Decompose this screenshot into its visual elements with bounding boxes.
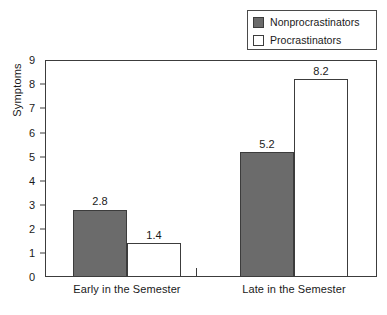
bar-early-nonprocrastinators <box>73 210 127 278</box>
y-tick-label: 7 <box>29 103 35 114</box>
bar-chart: Nonprocrastinators Procrastinators Sympt… <box>0 0 387 315</box>
y-tick-label: 0 <box>29 272 35 283</box>
legend-item-procrastinators: Procrastinators <box>253 32 372 48</box>
y-tick-label: 6 <box>29 128 35 139</box>
filled-square-icon <box>253 17 264 28</box>
y-tick-label: 3 <box>29 200 35 211</box>
y-tick-label: 9 <box>29 55 35 66</box>
hollow-square-icon <box>253 35 264 46</box>
y-tick-label: 4 <box>29 176 35 187</box>
y-tick-label: 5 <box>29 152 35 163</box>
legend-item-label: Procrastinators <box>270 34 341 46</box>
y-tick-label: 8 <box>29 79 35 90</box>
y-tick-label: 2 <box>29 224 35 235</box>
bar-value-label: 5.2 <box>259 138 274 150</box>
bar-early-procrastinators <box>127 243 181 277</box>
bar-late-procrastinators <box>294 79 348 277</box>
bar-late-nonprocrastinators <box>240 152 294 277</box>
y-tick-label: 1 <box>29 248 35 259</box>
x-tick-label-early: Early in the Semester <box>73 283 180 296</box>
bar-value-label: 8.2 <box>313 65 328 77</box>
legend-item-label: Nonprocrastinators <box>270 16 360 28</box>
x-tick-label-late: Late in the Semester <box>242 283 346 296</box>
legend-item-nonprocrastinators: Nonprocrastinators <box>253 14 372 30</box>
bar-value-label: 2.8 <box>92 195 107 207</box>
bar-value-label: 1.4 <box>146 229 161 241</box>
chart-legend: Nonprocrastinators Procrastinators <box>247 10 377 50</box>
y-axis: 9 8 7 6 5 4 3 2 1 0 <box>0 0 45 315</box>
bars-layer: 2.8 1.4 5.2 8.2 <box>45 60 377 277</box>
x-axis-mid-tick <box>196 268 197 277</box>
